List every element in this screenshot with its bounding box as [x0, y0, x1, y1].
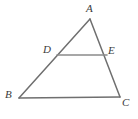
vertex-label-d: D — [43, 44, 51, 55]
segment-ac — [90, 19, 120, 97]
vertex-label-b: B — [5, 89, 12, 100]
triangle-diagram — [0, 0, 138, 119]
segment-bc — [19, 97, 120, 98]
segment-ab — [19, 19, 90, 98]
vertex-label-c: C — [122, 97, 129, 108]
geometry-figure: A B C D E — [0, 0, 138, 119]
vertex-label-a: A — [86, 3, 93, 14]
vertex-label-e: E — [108, 45, 115, 56]
